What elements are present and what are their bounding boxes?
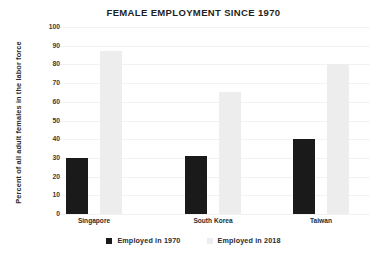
bar — [293, 139, 315, 214]
chart-legend: Employed in 1970Employed in 2018 — [0, 236, 387, 245]
x-axis-category-label: Singapore — [49, 217, 139, 224]
y-axis-tick-label: 60 — [38, 99, 60, 106]
legend-label: Employed in 1970 — [117, 236, 180, 245]
y-axis-tick-label: 90 — [38, 43, 60, 50]
y-axis-tick-label: 10 — [38, 192, 60, 199]
y-axis-title: Percent of all adult females in the labo… — [14, 28, 23, 218]
legend-item[interactable]: Employed in 2018 — [207, 236, 281, 245]
y-axis-tick-label: 50 — [38, 118, 60, 125]
bar — [327, 64, 349, 214]
y-axis-tick-label: 30 — [38, 155, 60, 162]
y-axis-tick-label: 40 — [38, 136, 60, 143]
x-axis-category-label: South Korea — [168, 217, 258, 224]
bar — [185, 156, 207, 214]
gridline — [60, 214, 370, 215]
chart-title: FEMALE EMPLOYMENT SINCE 1970 — [0, 7, 387, 18]
y-axis-tick-label: 80 — [38, 61, 60, 68]
y-axis-tick-label: 100 — [38, 24, 60, 31]
y-axis-tick-label: 20 — [38, 174, 60, 181]
gridline — [60, 27, 370, 28]
y-axis-tick-label: 70 — [38, 80, 60, 87]
x-axis-category-label: Taiwan — [276, 217, 366, 224]
bar — [100, 51, 122, 214]
bar-chart: FEMALE EMPLOYMENT SINCE 1970 Percent of … — [0, 0, 387, 259]
plot-area: SingaporeSouth KoreaTaiwan — [60, 27, 370, 214]
bar — [66, 158, 88, 214]
bar — [219, 92, 241, 214]
legend-swatch-icon — [207, 238, 213, 244]
legend-item[interactable]: Employed in 1970 — [106, 236, 180, 245]
legend-swatch-icon — [106, 238, 112, 244]
gridline — [60, 46, 370, 47]
legend-label: Employed in 2018 — [218, 236, 281, 245]
